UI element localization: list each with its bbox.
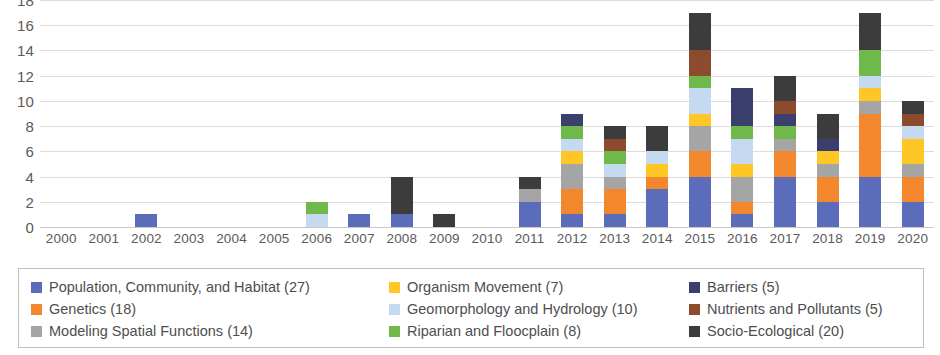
bar-segment[interactable]: [902, 101, 924, 114]
bar-stack[interactable]: [604, 126, 626, 227]
bar-stack[interactable]: [135, 214, 157, 227]
bar-segment[interactable]: [561, 114, 583, 127]
bar-segment[interactable]: [646, 177, 668, 190]
bar-segment[interactable]: [902, 177, 924, 202]
bar-slot[interactable]: [295, 0, 338, 227]
bar-segment[interactable]: [604, 164, 626, 177]
bar-stack[interactable]: [348, 214, 370, 227]
bar-segment[interactable]: [774, 101, 796, 114]
bar-stack[interactable]: [561, 114, 583, 227]
bar-segment[interactable]: [519, 189, 541, 202]
bar-segment[interactable]: [731, 177, 753, 202]
bar-slot[interactable]: [168, 0, 211, 227]
bar-segment[interactable]: [604, 214, 626, 227]
bar-segment[interactable]: [604, 139, 626, 152]
legend-item[interactable]: Barriers (5): [689, 280, 913, 295]
bar-slot[interactable]: [466, 0, 509, 227]
bar-segment[interactable]: [689, 114, 711, 127]
bar-slot[interactable]: [593, 0, 636, 227]
bar-slot[interactable]: [338, 0, 381, 227]
bar-slot[interactable]: [806, 0, 849, 227]
bar-segment[interactable]: [774, 151, 796, 176]
bar-segment[interactable]: [774, 76, 796, 101]
bar-segment[interactable]: [731, 88, 753, 126]
bar-segment[interactable]: [561, 164, 583, 189]
bar-segment[interactable]: [817, 177, 839, 202]
bar-segment[interactable]: [859, 13, 881, 51]
bar-slot[interactable]: [508, 0, 551, 227]
bar-slot[interactable]: [636, 0, 679, 227]
bar-segment[interactable]: [902, 164, 924, 177]
bar-segment[interactable]: [306, 202, 328, 215]
bar-segment[interactable]: [731, 214, 753, 227]
bar-slot[interactable]: [849, 0, 892, 227]
bar-stack[interactable]: [391, 177, 413, 227]
bar-segment[interactable]: [135, 214, 157, 227]
bar-segment[interactable]: [774, 177, 796, 227]
bar-segment[interactable]: [731, 126, 753, 139]
bar-slot[interactable]: [83, 0, 126, 227]
legend-item[interactable]: Modeling Spatial Functions (14): [31, 324, 389, 339]
bar-segment[interactable]: [859, 101, 881, 114]
bar-segment[interactable]: [689, 13, 711, 51]
bar-slot[interactable]: [764, 0, 807, 227]
bar-segment[interactable]: [774, 126, 796, 139]
bar-segment[interactable]: [902, 139, 924, 164]
bar-segment[interactable]: [348, 214, 370, 227]
bar-segment[interactable]: [817, 151, 839, 164]
legend-item[interactable]: Organism Movement (7): [389, 280, 689, 295]
bar-slot[interactable]: [210, 0, 253, 227]
bar-stack[interactable]: [859, 13, 881, 227]
bar-slot[interactable]: [253, 0, 296, 227]
bar-segment[interactable]: [306, 214, 328, 227]
bar-segment[interactable]: [689, 177, 711, 227]
bar-stack[interactable]: [689, 13, 711, 227]
bar-slot[interactable]: [551, 0, 594, 227]
bar-slot[interactable]: [891, 0, 934, 227]
bar-segment[interactable]: [689, 151, 711, 176]
bar-segment[interactable]: [433, 214, 455, 227]
bar-segment[interactable]: [391, 177, 413, 215]
bar-stack[interactable]: [646, 126, 668, 227]
legend-item[interactable]: Population, Community, and Habitat (27): [31, 280, 389, 295]
bar-segment[interactable]: [646, 189, 668, 227]
bar-segment[interactable]: [519, 177, 541, 190]
bar-segment[interactable]: [902, 114, 924, 127]
bar-segment[interactable]: [561, 139, 583, 152]
bar-segment[interactable]: [817, 202, 839, 227]
bar-segment[interactable]: [774, 139, 796, 152]
legend-item[interactable]: Nutrients and Pollutants (5): [689, 302, 913, 317]
bar-segment[interactable]: [859, 50, 881, 75]
bar-segment[interactable]: [689, 76, 711, 89]
bar-segment[interactable]: [689, 50, 711, 75]
bar-stack[interactable]: [902, 101, 924, 227]
bar-stack[interactable]: [519, 177, 541, 227]
bar-segment[interactable]: [859, 177, 881, 227]
bar-stack[interactable]: [731, 88, 753, 227]
bar-slot[interactable]: [721, 0, 764, 227]
bar-segment[interactable]: [731, 139, 753, 164]
bar-segment[interactable]: [731, 164, 753, 177]
bar-segment[interactable]: [731, 202, 753, 215]
bar-segment[interactable]: [689, 126, 711, 151]
bar-segment[interactable]: [902, 126, 924, 139]
legend-item[interactable]: Geomorphology and Hydrology (10): [389, 302, 689, 317]
bar-segment[interactable]: [604, 189, 626, 214]
bar-stack[interactable]: [306, 202, 328, 227]
bar-segment[interactable]: [646, 164, 668, 177]
bar-segment[interactable]: [519, 202, 541, 227]
bar-segment[interactable]: [859, 76, 881, 89]
bar-segment[interactable]: [817, 114, 839, 139]
bar-segment[interactable]: [604, 126, 626, 139]
bar-slot[interactable]: [423, 0, 466, 227]
bar-segment[interactable]: [604, 177, 626, 190]
legend-item[interactable]: Socio-Ecological (20): [689, 324, 913, 339]
bar-segment[interactable]: [817, 139, 839, 152]
bar-segment[interactable]: [561, 126, 583, 139]
bar-segment[interactable]: [774, 114, 796, 127]
bar-stack[interactable]: [433, 214, 455, 227]
bar-slot[interactable]: [381, 0, 424, 227]
bar-segment[interactable]: [817, 164, 839, 177]
bar-slot[interactable]: [125, 0, 168, 227]
bar-segment[interactable]: [859, 88, 881, 101]
